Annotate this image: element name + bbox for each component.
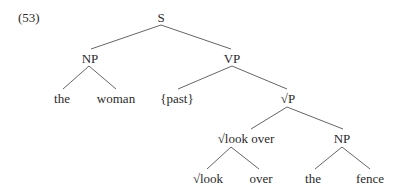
node-look-over: √look over [218,131,275,146]
edge-np-the [63,66,89,89]
edge-rootp-lookover [251,107,287,129]
edge-vp-past [178,66,232,89]
edge-lookover-over [231,147,259,169]
leaf-over: over [249,171,272,186]
edge-s-np [91,25,161,49]
edge-lookover-look [207,147,231,169]
leaf-past: {past} [160,91,193,106]
leaf-the-2: the [305,171,321,186]
node-vp: VP [224,51,241,66]
edge-s-vp [161,25,231,49]
node-np-subject: NP [82,51,99,66]
edge-np-the2 [315,147,342,169]
node-np-object: NP [334,131,351,146]
edge-np-fence [342,147,370,169]
edge-vp-rootp [232,66,287,89]
node-s: S [157,10,164,25]
leaf-fence: fence [356,171,384,186]
edge-rootp-np [287,107,343,129]
leaf-the: the [54,91,70,106]
example-number: (53) [18,10,40,25]
leaf-woman: woman [97,91,135,106]
node-root-p: √P [281,91,295,106]
leaf-look: √look [193,171,223,186]
edge-np-woman [89,66,116,89]
